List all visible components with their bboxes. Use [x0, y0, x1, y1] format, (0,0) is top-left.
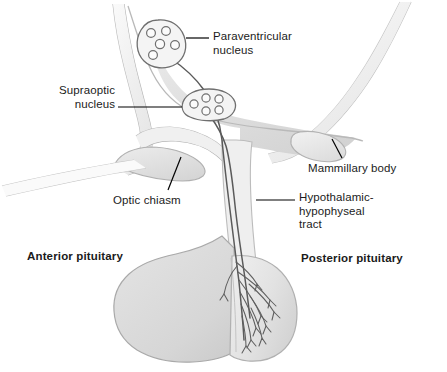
optic-nerve-lines: [2, 160, 146, 196]
label-posterior-pituitary: Posterior pituitary: [301, 252, 403, 266]
label-supraoptic-nucleus: Supraoptic nucleus: [18, 84, 115, 111]
label-optic-chiasm: Optic chiasm: [113, 194, 181, 208]
label-mammillary-body: Mammillary body: [308, 162, 396, 176]
posterior-pituitary-lobe: [230, 256, 297, 362]
label-anterior-pituitary: Anterior pituitary: [27, 250, 123, 264]
anatomy-diagram: Paraventricular nucleus Supraoptic nucle…: [0, 0, 447, 372]
anterior-pituitary-lobe: [114, 236, 237, 362]
label-paraventricular-nucleus: Paraventricular nucleus: [213, 30, 292, 57]
paraventricular-nucleus: [137, 20, 186, 68]
supraoptic-nucleus: [182, 89, 235, 121]
label-hypothalamic-hypophyseal-tract: Hypothalamic- hypophyseal tract: [299, 191, 394, 232]
